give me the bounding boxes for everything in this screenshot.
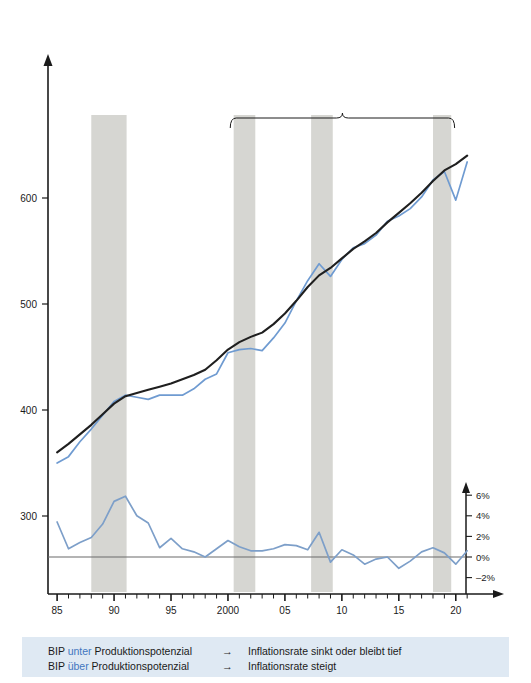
legend-row-1-suffix: Produktionspotenzial bbox=[92, 645, 192, 657]
y-axis-arrow-icon bbox=[44, 54, 53, 66]
right-tick-label: 4% bbox=[476, 510, 490, 521]
x-tick-label: 20 bbox=[450, 605, 462, 616]
chart-canvas: 300400500600859095200005101520–2%0%2%4%6… bbox=[0, 0, 531, 683]
x-tick-label: 95 bbox=[165, 605, 177, 616]
bracket-schwache-hochkonjunktur bbox=[230, 113, 454, 128]
recession-band-2 bbox=[234, 115, 256, 592]
recession-band-1 bbox=[91, 115, 126, 592]
x-tick-label: 15 bbox=[393, 605, 405, 616]
recession-band-4 bbox=[433, 115, 451, 592]
legend-row-2-consequence: Inflationsrate steigt bbox=[248, 660, 336, 672]
x-tick-label: 2000 bbox=[217, 605, 240, 616]
chart-figure: 300400500600859095200005101520–2%0%2%4%6… bbox=[0, 0, 531, 683]
right-tick-label: 0% bbox=[476, 552, 490, 563]
legend-row-1: BIP unter Produktionspotenzial bbox=[48, 645, 192, 657]
y-tick-label: 500 bbox=[20, 299, 37, 310]
x-tick-label: 05 bbox=[279, 605, 291, 616]
right-tick-label: 2% bbox=[476, 531, 490, 542]
legend-row-2-prefix: BIP bbox=[48, 660, 68, 672]
period-bracket bbox=[230, 113, 454, 128]
legend-row-1-consequence: Inflationsrate sinkt oder bleibt tief bbox=[248, 645, 402, 657]
recession-band-3 bbox=[311, 115, 333, 592]
legend-row-2-arrow-icon: → bbox=[222, 660, 233, 672]
y-tick-label: 400 bbox=[20, 405, 37, 416]
legend-row-1-arrow-icon: → bbox=[222, 645, 233, 657]
y-tick-label: 300 bbox=[20, 511, 37, 522]
x-tick-label: 85 bbox=[52, 605, 64, 616]
x-tick-label: 90 bbox=[109, 605, 121, 616]
y-tick-label: 600 bbox=[20, 193, 37, 204]
x-axis-arrow-icon bbox=[493, 590, 504, 598]
legend-row-1-highlight: unter bbox=[68, 645, 92, 657]
legend-row-2: BIP über Produktionspotenzial bbox=[48, 660, 189, 672]
right-axis-arrow-icon bbox=[462, 482, 470, 493]
legend-row-2-suffix: Produktionspotenzial bbox=[89, 660, 189, 672]
legend-row-2-highlight: über bbox=[68, 660, 89, 672]
legend-row-1-prefix: BIP bbox=[48, 645, 68, 657]
right-tick-label: –2% bbox=[476, 572, 496, 583]
right-tick-label: 6% bbox=[476, 490, 490, 501]
x-tick-label: 10 bbox=[336, 605, 348, 616]
